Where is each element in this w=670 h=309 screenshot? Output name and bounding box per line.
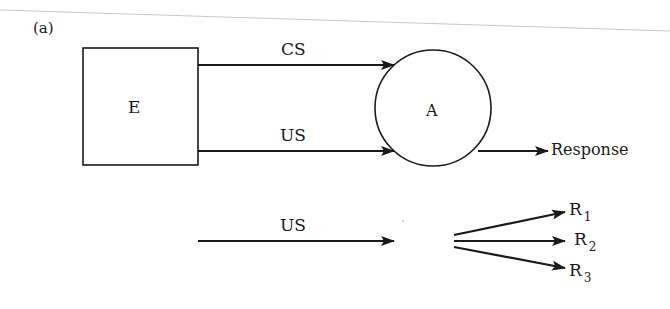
response-r2-label: R2 [574,231,596,248]
lower-us-label: US [280,217,306,234]
r3-arrow [454,247,565,268]
speck [402,220,404,222]
r3-subscript: 3 [584,271,592,285]
r2-subscript: 2 [589,240,597,254]
response-r1-label: R1 [569,201,591,218]
us-label: US [280,127,306,144]
r1-arrow [454,212,565,235]
r1-letter: R [569,199,582,219]
r3-letter: R [569,260,582,280]
environment-box [83,48,198,165]
animal-label: A [426,103,438,119]
scan-artifact-line [0,10,670,31]
r1-subscript: 1 [584,210,592,224]
environment-label: E [128,99,140,116]
r2-letter: R [574,229,587,249]
panel-label: (a) [33,21,54,36]
cs-label: CS [281,41,306,58]
response-r3-label: R3 [569,262,591,279]
response-label: Response [551,142,629,158]
